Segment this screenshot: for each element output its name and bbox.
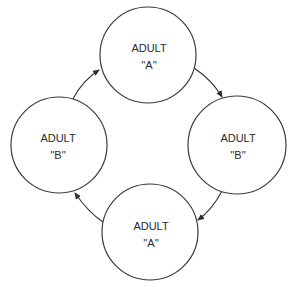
node-label: ADULT <box>133 220 169 232</box>
node-adult-b-left: ADULT ''B'' <box>11 97 107 193</box>
node-label: ADULT <box>40 132 76 144</box>
node-sublabel: ''B'' <box>50 149 66 161</box>
node-label: ADULT <box>220 132 256 144</box>
node-circle <box>11 97 107 193</box>
life-cycle-diagram: ADULT ''A'' ADULT ''B'' ADULT ''A'' ADUL… <box>0 0 293 287</box>
node-adult-a-top: ADULT ''A'' <box>100 7 196 103</box>
node-label: ADULT <box>131 42 167 54</box>
node-circle <box>102 184 198 280</box>
arrow-right-to-bottom <box>198 191 222 220</box>
arrow-top-to-right <box>194 68 222 97</box>
node-sublabel: ''A'' <box>141 59 157 71</box>
node-adult-b-right: ADULT ''B'' <box>188 96 286 194</box>
arrow-bottom-to-left <box>75 193 103 222</box>
node-sublabel: ''B'' <box>230 149 246 161</box>
node-adult-a-bottom: ADULT ''A'' <box>102 184 198 280</box>
node-sublabel: ''A'' <box>143 237 159 249</box>
node-circle <box>100 7 196 103</box>
arrow-left-to-top <box>73 70 99 99</box>
node-circle <box>188 96 286 194</box>
